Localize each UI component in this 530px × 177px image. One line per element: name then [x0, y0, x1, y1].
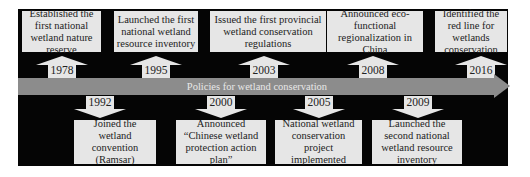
year-label-2000: 2000 — [195, 96, 247, 108]
timeline-arrowhead-icon — [494, 74, 510, 98]
event-text-2009: Launched the second national wetland res… — [374, 118, 460, 166]
year-label-1978: 1978 — [36, 64, 88, 76]
up-arrow-2008: 2008 — [347, 56, 399, 78]
event-text-2000: Announced “Chinese wetland protection ac… — [178, 118, 264, 166]
event-box-2008: Announced eco-functional regionalization… — [327, 11, 423, 52]
year-label-2008: 2008 — [347, 64, 399, 76]
event-text-1995: Launched the first national wetland reso… — [116, 14, 196, 50]
event-box-2009: Launched the second national wetland res… — [372, 120, 462, 164]
year-label-1992: 1992 — [74, 96, 126, 108]
down-arrow-1992: 1992 — [74, 96, 126, 118]
event-text-2016: Identified the red line for wetlands con… — [437, 8, 505, 56]
year-label-1995: 1995 — [130, 64, 182, 76]
event-box-1995: Launched the first national wetland reso… — [114, 11, 198, 52]
event-box-2003: Issued the first provincial wetland cons… — [210, 11, 326, 52]
event-box-2000: Announced “Chinese wetland protection ac… — [176, 120, 266, 164]
down-arrow-2000: 2000 — [195, 96, 247, 118]
event-text-2003: Issued the first provincial wetland cons… — [212, 14, 324, 50]
up-arrow-2003: 2003 — [238, 56, 290, 78]
event-box-1992: Joined the wetland convention (Ramsar) — [74, 120, 156, 164]
event-text-2008: Announced eco-functional regionalization… — [329, 8, 421, 56]
event-text-2005: National wetland conservation project im… — [277, 118, 360, 166]
event-text-1992: Joined the wetland convention (Ramsar) — [76, 118, 154, 166]
down-arrow-2009: 2009 — [392, 96, 444, 118]
year-label-2003: 2003 — [238, 64, 290, 76]
event-box-1978: Established the first national wetland n… — [22, 11, 101, 52]
down-arrow-2005: 2005 — [293, 96, 345, 118]
event-box-2016: Identified the red line for wetlands con… — [435, 11, 507, 52]
timeline-axis: Policies for wetland conservation — [18, 78, 496, 95]
year-label-2009: 2009 — [392, 96, 444, 108]
event-box-2005: National wetland conservation project im… — [275, 120, 362, 164]
year-label-2005: 2005 — [293, 96, 345, 108]
event-text-1978: Established the first national wetland n… — [24, 8, 99, 56]
up-arrow-1995: 1995 — [130, 56, 182, 78]
up-arrow-1978: 1978 — [36, 56, 88, 78]
timeline-axis-label: Policies for wetland conservation — [18, 78, 496, 95]
